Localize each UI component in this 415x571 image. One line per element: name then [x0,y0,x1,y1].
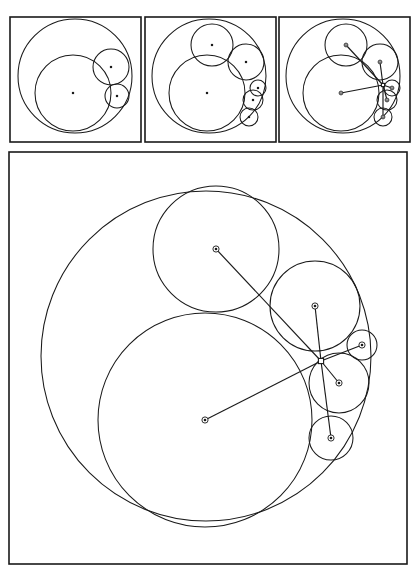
panel-top-right-center-dot-medium-upper-right [379,61,381,63]
panel-top-middle-center-dot-small-right-mid [252,99,254,101]
panel-top-right-center-dot-small-right-lower [382,116,384,118]
panel-top-left [10,17,141,142]
panel-top-middle-center-dot-small-right-upper [257,87,259,89]
panel-top-left-center-dot-large-inner [72,92,74,94]
panel-top-right-center-dot-top-circle [345,44,347,46]
circle-packing-figure [0,0,415,571]
panel-top-right-hub-point [381,83,384,86]
panel-top-middle-frame [145,17,276,142]
figure-root [0,0,415,571]
panel-top-left-center-dot-small-lower-right [116,95,118,97]
panel-top-right-frame [279,17,410,142]
panel-top-right [279,17,410,142]
panel-main-center-dot-small-right-upper [361,344,364,347]
panel-top-right-center-dot-small-right-mid [386,99,388,101]
panel-main-center-dot-large-inner [204,419,207,422]
panel-main-center-dot-top-circle [215,248,218,251]
panel-top-left-center-dot-medium-upper-right [110,66,112,68]
panel-top-middle-center-dot-top-circle [211,44,213,46]
panel-main [9,152,407,564]
panel-top-middle-center-dot-medium-upper-right [245,61,247,63]
panel-top-right-center-dot-large-inner [340,92,342,94]
panel-main-center-dot-medium-upper-right [314,305,317,308]
panel-top-middle [145,17,276,142]
panel-top-left-frame [10,17,141,142]
panel-main-hub-point [318,358,323,363]
panel-main-center-dot-small-right-lower [330,437,333,440]
panel-top-middle-center-dot-large-inner [206,92,208,94]
panel-top-middle-center-dot-small-right-lower [248,116,250,118]
panel-top-right-center-dot-small-right-upper [391,87,393,89]
panel-main-center-dot-small-right-mid [338,382,341,385]
panel-main-frame [9,152,407,564]
